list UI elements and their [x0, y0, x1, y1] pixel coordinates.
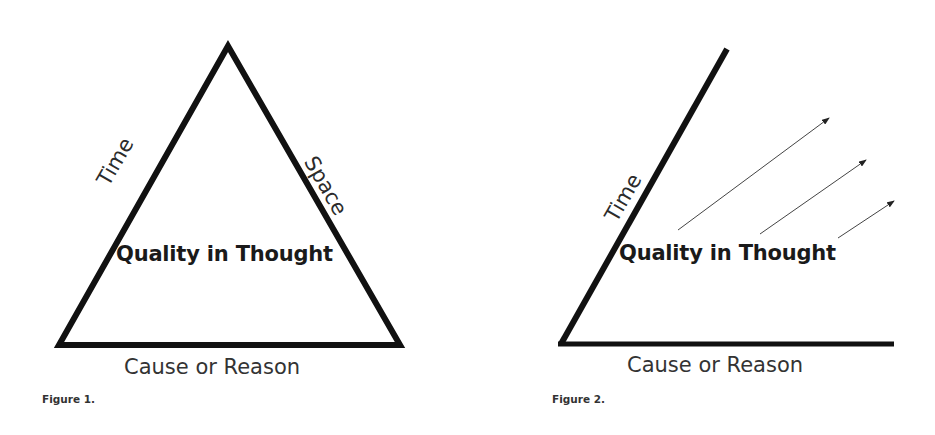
time-axis-line — [561, 49, 727, 344]
figure2-caption: Figure 2. — [552, 393, 605, 405]
triangle-outline — [59, 46, 400, 345]
figure2-center-label: Quality in Thought — [619, 241, 836, 265]
figure1-caption: Figure 1. — [42, 393, 95, 405]
arrow-3 — [838, 201, 894, 238]
figure1-base-label: Cause or Reason — [124, 355, 300, 379]
figure2-angle — [558, 49, 894, 344]
figure2-base-label: Cause or Reason — [627, 353, 803, 377]
figure1-triangle — [59, 46, 400, 345]
arrow-2 — [760, 160, 866, 234]
arrow-1 — [678, 118, 829, 230]
figure1-center-label: Quality in Thought — [116, 242, 333, 266]
